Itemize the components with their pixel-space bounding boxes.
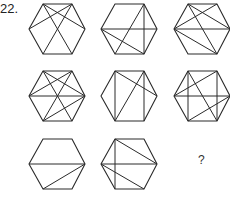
hexagon-figure [174,71,230,121]
hexagon-figure [101,139,157,189]
hexagon-figure [29,71,85,121]
hexagon-figure [101,71,157,121]
hexagon-figure [29,139,85,189]
hexagon-matrix [0,0,230,197]
missing-figure-placeholder: ? [198,153,205,167]
diagonal-line [115,71,144,121]
hexagon-figure [174,4,230,54]
hexagon-figure [101,4,157,54]
hexagon-figure [29,4,85,54]
